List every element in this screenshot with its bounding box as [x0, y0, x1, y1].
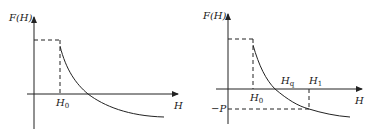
right-diagram: F(H) H H0 Hq H1 −P [202, 10, 364, 124]
neg-p-label: −P [211, 103, 226, 114]
y-axis-label: F(H) [202, 10, 227, 21]
y-axis-label: F(H) [8, 12, 33, 23]
figure: F(H) H H0 F(H) H H0 Hq H1 −P [0, 0, 368, 139]
h0-label: H0 [249, 92, 263, 105]
x-axis-label: H [354, 95, 364, 106]
x-axis-label: H [173, 100, 183, 111]
response-curve [253, 45, 350, 117]
h1-label: H1 [308, 75, 322, 88]
hq-label: Hq [280, 75, 295, 88]
left-diagram: F(H) H H0 [8, 12, 183, 129]
response-curve [60, 46, 164, 117]
h0-label: H0 [55, 97, 69, 110]
